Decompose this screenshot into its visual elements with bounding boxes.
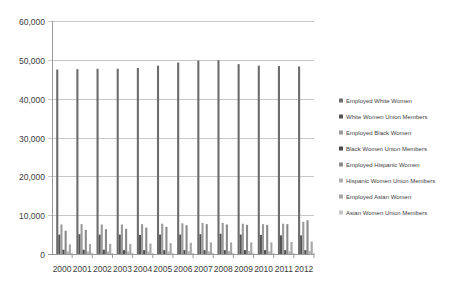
x-tick-label: 2012 bbox=[294, 264, 313, 274]
bar bbox=[97, 69, 99, 254]
bar bbox=[147, 251, 149, 254]
bar bbox=[172, 253, 174, 254]
legend-swatch bbox=[339, 179, 343, 183]
bar bbox=[121, 224, 123, 254]
bar bbox=[313, 253, 315, 254]
bar bbox=[129, 244, 131, 254]
legend: Employed White WomenWhite Women Union Me… bbox=[339, 98, 435, 216]
legend-label: Employed Hispanic Women bbox=[346, 162, 420, 168]
legend-swatch bbox=[339, 163, 343, 167]
bar bbox=[272, 253, 274, 254]
bar bbox=[250, 242, 252, 254]
bar bbox=[230, 242, 232, 254]
bar bbox=[105, 229, 107, 254]
legend-swatch bbox=[339, 115, 343, 119]
bar bbox=[304, 250, 306, 254]
x-tick-label: 2006 bbox=[174, 264, 193, 274]
legend-swatch bbox=[339, 131, 343, 135]
y-tick-label: 0 bbox=[40, 250, 45, 260]
legend-label: Employed Asian Women bbox=[346, 194, 411, 200]
y-tick-label: 10,000 bbox=[19, 211, 45, 221]
bar bbox=[161, 224, 163, 254]
bar bbox=[60, 224, 62, 254]
bar bbox=[300, 235, 302, 254]
bar bbox=[204, 250, 206, 254]
bar bbox=[63, 250, 65, 254]
bar bbox=[199, 234, 201, 254]
bar bbox=[226, 224, 228, 254]
legend-label: White Women Union Members bbox=[346, 114, 428, 120]
x-tick-label: 2007 bbox=[194, 264, 213, 274]
legend-swatch bbox=[339, 147, 343, 151]
bar bbox=[252, 253, 254, 254]
bar bbox=[67, 251, 69, 254]
bar bbox=[99, 235, 101, 254]
bar bbox=[163, 250, 165, 254]
bar bbox=[111, 253, 113, 254]
bar bbox=[149, 244, 151, 254]
bar bbox=[208, 251, 210, 254]
x-tick-label: 2008 bbox=[214, 264, 233, 274]
bar bbox=[127, 251, 129, 254]
bar bbox=[284, 250, 286, 254]
x-axis: 2000200120022003200420052006200720082009… bbox=[53, 254, 314, 274]
bar bbox=[85, 230, 87, 254]
bar bbox=[197, 61, 199, 254]
bar bbox=[167, 251, 169, 254]
bar bbox=[242, 224, 244, 254]
bar bbox=[224, 250, 226, 254]
bar bbox=[186, 225, 188, 254]
bar bbox=[177, 63, 179, 254]
x-tick-label: 2011 bbox=[275, 264, 294, 274]
bar bbox=[83, 250, 85, 254]
bar bbox=[159, 235, 161, 254]
bar bbox=[107, 251, 109, 254]
legend-swatch bbox=[339, 99, 343, 103]
bar bbox=[87, 251, 89, 254]
bar bbox=[152, 253, 154, 254]
x-tick-label: 2003 bbox=[113, 264, 132, 274]
legend-label: Employed Black Women bbox=[346, 130, 411, 136]
bar bbox=[302, 222, 304, 254]
bar bbox=[268, 251, 270, 254]
bar bbox=[78, 234, 80, 254]
bar bbox=[288, 251, 290, 254]
bar bbox=[157, 66, 159, 254]
bar bbox=[170, 243, 172, 254]
bar bbox=[206, 224, 208, 254]
x-tick-label: 2000 bbox=[53, 264, 72, 274]
bar bbox=[109, 244, 111, 254]
bar bbox=[262, 224, 264, 254]
bar bbox=[220, 234, 222, 254]
bar bbox=[210, 242, 212, 254]
bar bbox=[143, 250, 145, 254]
bar bbox=[125, 229, 127, 254]
bar bbox=[188, 251, 190, 254]
bar bbox=[91, 253, 93, 254]
bar bbox=[192, 253, 194, 254]
bar bbox=[165, 227, 167, 254]
legend-swatch bbox=[339, 195, 343, 199]
y-axis: 010,00020,00030,00040,00050,00060,000 bbox=[19, 17, 53, 260]
bar bbox=[123, 250, 125, 254]
bar bbox=[270, 242, 272, 254]
bar bbox=[183, 250, 185, 254]
bar bbox=[240, 235, 242, 254]
bar bbox=[131, 253, 133, 254]
bar bbox=[248, 251, 250, 254]
x-tick-label: 2010 bbox=[254, 264, 273, 274]
bar bbox=[222, 223, 224, 254]
x-tick-label: 2005 bbox=[153, 264, 172, 274]
bar bbox=[201, 223, 203, 254]
bar bbox=[311, 242, 313, 254]
x-tick-label: 2004 bbox=[133, 264, 152, 274]
bar bbox=[190, 243, 192, 254]
gridlines bbox=[48, 22, 314, 255]
bar bbox=[69, 244, 71, 254]
bar bbox=[264, 250, 266, 254]
bar bbox=[286, 224, 288, 254]
bar bbox=[244, 250, 246, 254]
bar bbox=[65, 231, 67, 254]
x-tick-label: 2002 bbox=[93, 264, 112, 274]
bars bbox=[56, 60, 315, 254]
